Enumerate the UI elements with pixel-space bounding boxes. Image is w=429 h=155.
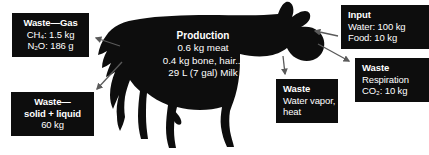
callout-waste-respiration-title: Waste [362,62,422,74]
callout-waste-solid-liquid-title: Waste— [18,96,87,108]
callout-production-line-3: 29 L (7 gal) Milk [143,67,263,80]
cow-mass-balance-figure: Waste—Gas CH₄: 1.5 kg N₂O: 186 g Waste— … [0,0,429,155]
callout-production: Production 0.6 kg meat 0.4 kg bone, hair… [143,29,263,80]
arrow-to-waste-solid-liquid [97,62,122,89]
callout-waste-gas: Waste—Gas CH₄: 1.5 kg N₂O: 186 g [12,13,89,57]
callout-production-line-2: 0.4 kg bone, hair... [143,55,263,68]
arrow-to-waste-gas [96,38,120,46]
arrow-to-waste-water-vapor [283,56,285,74]
callout-waste-respiration-line-1: Respiration [362,74,422,86]
callout-waste-solid-liquid-line-1: solid + liquid [18,108,87,120]
callout-input: Input Water: 100 kg Food: 10 kg [341,5,429,49]
callout-waste-respiration: Waste Respiration CO₂: 10 kg [355,58,429,102]
callout-production-line-1: 0.6 kg meat [143,42,263,55]
arrow-from-input [315,31,338,36]
callout-waste-water-vapor: Waste Water vapor, heat [276,79,338,123]
callout-waste-gas-line-2: N₂O: 186 g [19,40,82,52]
callout-waste-water-vapor-title: Waste [283,83,331,95]
callout-waste-solid-liquid: Waste— solid + liquid 60 kg [11,92,94,136]
callout-waste-respiration-line-2: CO₂: 10 kg [362,85,422,97]
callout-waste-gas-title: Waste—Gas [19,17,82,29]
callout-production-title: Production [143,29,263,42]
callout-input-line-2: Food: 10 kg [348,32,422,44]
callout-waste-water-vapor-line-2: heat [283,106,331,118]
callout-input-title: Input [348,9,422,21]
callout-waste-water-vapor-line-1: Water vapor, [283,95,331,107]
callout-input-line-1: Water: 100 kg [348,21,422,33]
callout-waste-solid-liquid-line-2: 60 kg [18,119,87,131]
callout-waste-gas-line-1: CH₄: 1.5 kg [19,29,82,41]
